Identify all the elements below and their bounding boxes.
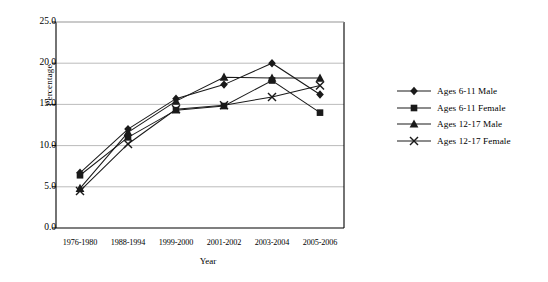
data-point-diamond — [220, 80, 228, 88]
legend-item: Ages 6-11 Female — [396, 100, 511, 117]
legend-marker-cross-icon — [396, 134, 432, 148]
data-point-square — [411, 104, 418, 111]
x-axis-title: Year — [148, 256, 268, 266]
data-point-cross — [124, 140, 132, 148]
legend-label: Ages 6-11 Female — [432, 103, 506, 113]
legend-label: Ages 6-11 Male — [432, 86, 497, 96]
legend-marker-square-icon — [396, 101, 432, 115]
x-tick-label: 1999-2000 — [159, 238, 194, 247]
data-point-cross — [316, 81, 324, 89]
x-tick-label: 1988-1994 — [111, 238, 146, 247]
data-point-triangle — [220, 73, 229, 81]
x-tick-label: 2001-2002 — [207, 238, 242, 247]
legend-marker-diamond-icon — [396, 84, 432, 98]
legend-item: Ages 6-11 Male — [396, 83, 511, 100]
data-point-square — [77, 172, 84, 179]
x-tick-label: 2005-2006 — [303, 238, 338, 247]
legend-item: Ages 12-17 Female — [396, 133, 511, 150]
legend-item: Ages 12-17 Male — [396, 116, 511, 133]
legend-label: Ages 12-17 Male — [432, 119, 502, 129]
legend-label: Ages 12-17 Female — [432, 136, 511, 146]
chart-legend: Ages 6-11 MaleAges 6-11 FemaleAges 12-17… — [396, 83, 511, 149]
data-point-diamond — [268, 59, 276, 67]
data-point-diamond — [410, 87, 418, 95]
series-line — [80, 81, 320, 176]
series-line — [80, 85, 320, 190]
chart-figure: Percentage 0.05.010.015.020.025.0 1976-1… — [0, 0, 548, 282]
x-tick-label: 2003-2004 — [255, 238, 290, 247]
legend-marker-triangle-icon — [396, 117, 432, 131]
data-point-square — [317, 109, 324, 116]
x-tick-label: 1976-1980 — [63, 238, 98, 247]
data-point-diamond — [316, 90, 324, 98]
